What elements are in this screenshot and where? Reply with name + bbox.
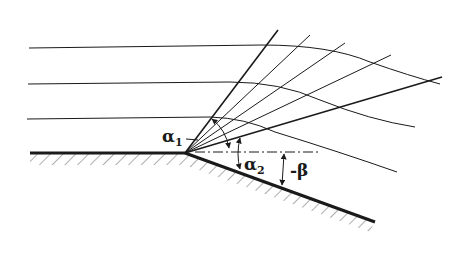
downstream-wall [185, 153, 375, 222]
beta-arrow [282, 154, 284, 185]
expansion-waves [185, 30, 442, 153]
wall-hatching [30, 153, 375, 232]
alpha2-arc [238, 138, 240, 169]
expansion-fan-diagram: α1 α2 -β [0, 0, 463, 255]
first-mach-line [185, 30, 278, 153]
mach-line [185, 55, 391, 153]
streamline-top [29, 45, 440, 84]
alpha1-label: α1 [162, 126, 183, 149]
mach-line [185, 43, 345, 153]
last-mach-line [185, 77, 442, 153]
beta-label: -β [290, 160, 308, 180]
alpha2-label: α2 [244, 154, 265, 177]
